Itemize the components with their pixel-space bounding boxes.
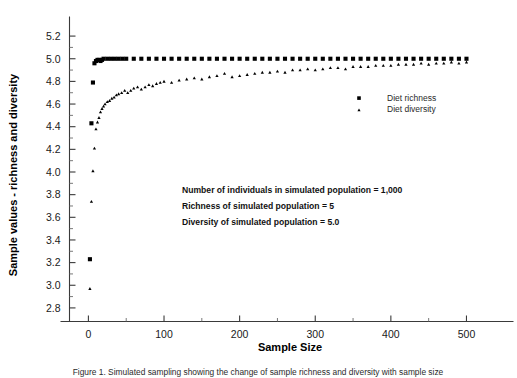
data-point (464, 57, 468, 61)
data-point (366, 57, 370, 61)
data-point (351, 57, 355, 61)
data-point (434, 57, 438, 61)
data-point (88, 257, 92, 261)
data-point (457, 57, 461, 61)
data-point (343, 57, 347, 61)
data-point (245, 57, 249, 61)
legend-marker-square-icon (357, 96, 361, 100)
data-point (328, 57, 332, 61)
data-point (427, 57, 431, 61)
x-tick-label: 400 (382, 328, 400, 340)
y-tick-label: 3.4 (46, 234, 61, 246)
data-point (419, 57, 423, 61)
legend-label-richness: Diet richness (387, 93, 436, 103)
data-point (91, 80, 95, 84)
data-point (238, 57, 242, 61)
data-point (132, 57, 136, 61)
annotation-line-3: Diversity of simulated population = 5.0 (182, 217, 340, 227)
data-point (117, 57, 121, 61)
figure-caption: Figure 1. Simulated sampling showing the… (73, 367, 444, 377)
y-tick-label: 4.6 (46, 98, 61, 110)
data-point (336, 57, 340, 61)
x-tick-label: 0 (85, 328, 91, 340)
y-tick-label: 3.6 (46, 211, 61, 223)
y-tick-label: 4.2 (46, 143, 61, 155)
data-point (381, 57, 385, 61)
y-tick-label: 5.0 (46, 53, 61, 65)
x-tick-label: 300 (306, 328, 324, 340)
x-tick-label: 200 (231, 328, 249, 340)
data-point (170, 57, 174, 61)
data-point (275, 57, 279, 61)
x-tick-label: 100 (155, 328, 173, 340)
data-point (404, 57, 408, 61)
y-axis-title: Sample values - richness and diversity (7, 73, 19, 276)
x-axis-title: Sample Size (258, 341, 322, 353)
data-point (147, 57, 151, 61)
data-point (268, 57, 272, 61)
y-tick-label: 3.2 (46, 256, 61, 268)
data-point (215, 57, 219, 61)
data-point (222, 57, 226, 61)
data-point (89, 121, 93, 125)
annotation-line-2: Richness of simulated population = 5 (182, 201, 334, 211)
data-point (253, 57, 257, 61)
data-point (396, 57, 400, 61)
data-point (306, 57, 310, 61)
annotation-line-1: Number of individuals in simulated popul… (182, 185, 403, 195)
data-point (230, 57, 234, 61)
data-point (105, 57, 109, 61)
y-tick-label: 4.0 (46, 166, 61, 178)
y-tick-label: 4.8 (46, 75, 61, 87)
data-point (449, 57, 453, 61)
data-point (207, 57, 211, 61)
data-point (374, 57, 378, 61)
data-point (442, 57, 446, 61)
data-point (298, 57, 302, 61)
data-point (260, 57, 264, 61)
data-point (113, 57, 117, 61)
data-point (109, 57, 113, 61)
data-point (101, 57, 105, 61)
data-point (321, 57, 325, 61)
data-point (389, 57, 393, 61)
scatter-plot: 2.83.03.23.43.63.84.04.24.44.64.85.05.2 … (0, 0, 517, 378)
y-tick-label: 2.8 (46, 302, 61, 314)
data-point (283, 57, 287, 61)
legend-label-diversity: Diet diversity (387, 104, 436, 114)
figure-caption-clip: Figure 1. Simulated sampling showing the… (0, 366, 517, 378)
data-point (154, 57, 158, 61)
data-point (185, 57, 189, 61)
data-point (120, 57, 124, 61)
data-point (139, 57, 143, 61)
data-point (162, 57, 166, 61)
data-point (200, 57, 204, 61)
y-tick-label: 3.8 (46, 188, 61, 200)
data-point (359, 57, 363, 61)
data-point (177, 57, 181, 61)
y-tick-label: 4.4 (46, 120, 61, 132)
x-tick-label: 500 (458, 328, 476, 340)
data-point (411, 57, 415, 61)
figure-container: 2.83.03.23.43.63.84.04.24.44.64.85.05.2 … (0, 0, 517, 378)
data-point (192, 57, 196, 61)
y-tick-label: 3.0 (46, 279, 61, 291)
data-point (313, 57, 317, 61)
data-point (124, 57, 128, 61)
data-point (291, 57, 295, 61)
y-tick-label: 5.2 (46, 30, 61, 42)
